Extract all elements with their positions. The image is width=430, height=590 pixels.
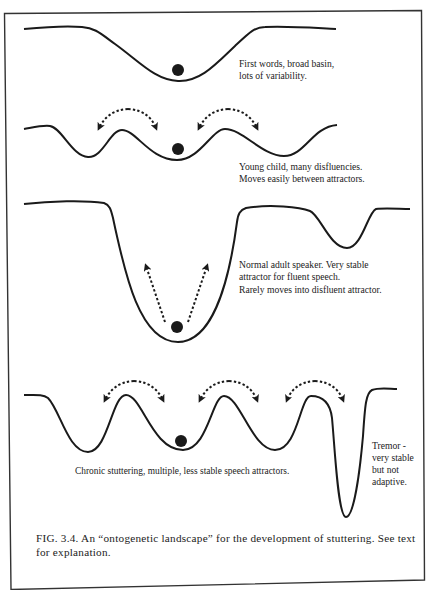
bidirectional-arrow-icon [287,381,315,400]
label-tremor: Tremor - very stable but not adaptive. [372,440,414,488]
escape-arrow-icon [188,266,207,322]
panel-chronic-stuttering [24,381,397,517]
label-line: but not [372,464,414,476]
figure-caption: FIG. 3.4. An “ontogenetic landscape” for… [36,532,415,559]
label-chronic-stuttering: Chronic stuttering, multiple, less stabl… [75,465,289,477]
label-line: very stable [372,452,414,464]
figure-frame [5,11,425,590]
ontogenetic-landscape-figure: First words, broad basin, lots of variab… [0,0,430,590]
caption-line: for explanation. [36,546,415,560]
label-line: Normal adult speaker. Very stable [239,259,382,271]
label-line: Tremor - [372,440,414,452]
label-line: Young child, many disfluencies. [239,161,365,173]
bidirectional-arrow-icon [199,109,228,128]
ball-icon [172,64,184,76]
label-young-child: Young child, many disfluencies. Moves ea… [239,161,365,186]
bidirectional-arrow-icon [200,381,229,400]
label-line: attractor for fluent speech. [239,271,382,283]
landscape-curve-shallow-basins [24,125,337,160]
ball-icon [175,435,187,447]
label-line: First words, broad basin, [239,58,334,70]
label-line: Rarely moves into disfluent attractor. [239,284,382,296]
label-normal-adult: Normal adult speaker. Very stable attrac… [239,259,382,296]
caption-line: FIG. 3.4. An “ontogenetic landscape” for… [36,532,415,546]
ball-icon [172,143,184,155]
bidirectional-arrow-icon [134,381,163,400]
label-line: Moves easily between attractors. [239,173,365,185]
bidirectional-arrow-icon [229,381,257,400]
label-line: adaptive. [372,476,414,488]
label-line: lots of variability. [239,70,334,82]
panel-young-child [24,109,337,160]
bidirectional-arrow-icon [128,109,156,128]
label-first-words: First words, broad basin, lots of variab… [239,58,334,83]
bidirectional-arrow-icon [105,381,134,400]
ball-icon [171,321,183,333]
label-line: Chronic stuttering, multiple, less stabl… [75,465,289,477]
escape-arrow-icon [146,266,165,322]
landscape-curve-multiple-basins [24,388,397,517]
bidirectional-arrow-icon [228,109,257,128]
bidirectional-arrow-icon [99,109,128,128]
